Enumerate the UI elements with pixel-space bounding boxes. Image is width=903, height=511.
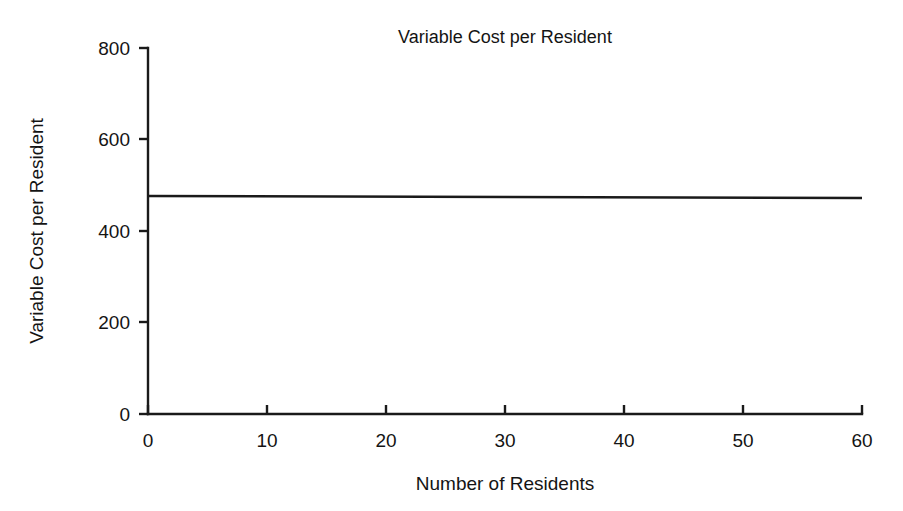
x-tick-label-40: 40: [613, 430, 634, 451]
x-tick-label-10: 10: [256, 430, 277, 451]
x-tick-label-50: 50: [732, 430, 753, 451]
x-axis-title: Number of Residents: [416, 473, 594, 494]
chart-canvas: 800 600 400 200 0 0 10 20 30 40 50 60 Va…: [0, 0, 903, 511]
x-tick-label-0: 0: [143, 430, 154, 451]
y-tick-label-200: 200: [98, 312, 130, 333]
y-tick-label-600: 600: [98, 129, 130, 150]
y-tick-label-400: 400: [98, 221, 130, 242]
x-tick-label-30: 30: [494, 430, 515, 451]
chart-figure: 800 600 400 200 0 0 10 20 30 40 50 60 Va…: [0, 0, 903, 511]
chart-title: Variable Cost per Resident: [398, 27, 612, 47]
y-tick-label-0: 0: [119, 404, 130, 425]
series-line-variable-cost: [148, 196, 862, 198]
x-tick-label-20: 20: [375, 430, 396, 451]
y-tick-label-800: 800: [98, 38, 130, 59]
y-axis-title: Variable Cost per Resident: [26, 117, 47, 343]
x-tick-label-60: 60: [851, 430, 872, 451]
